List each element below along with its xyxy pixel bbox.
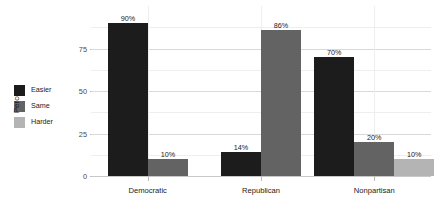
bar-democratic-easier[interactable]: 90% [108,23,148,176]
bar-nonpartisan-same[interactable]: 20% [354,142,394,176]
legend-item-same[interactable]: Same [14,98,76,114]
x-tick-mark-republican [261,176,262,181]
bar-value-nonpartisan-easier: 70% [327,49,341,56]
bar-value-democratic-same: 10% [161,151,175,158]
bar-value-republican-same: 86% [274,22,288,29]
plot-area: 90% 10% 14% 86% 70% 20% 10% [91,6,431,176]
y-tick-label-50: 50 [47,87,87,96]
y-tick-label-75: 75 [47,44,87,53]
bar-republican-same[interactable]: 86% [261,30,301,176]
x-tick-label-nonpartisan: Nonpartisan [354,186,395,195]
bar-nonpartisan-easier[interactable]: 70% [314,57,354,176]
bar-value-democratic-easier: 90% [121,15,135,22]
y-tick-label-0: 0 [47,172,87,181]
bar-value-nonpartisan-harder: 10% [407,151,421,158]
bar-democratic-same[interactable]: 10% [148,159,188,176]
bar-value-nonpartisan-same: 20% [367,134,381,141]
bar-republican-easier[interactable]: 14% [221,152,261,176]
legend-item-harder[interactable]: Harder [14,114,76,130]
x-tick-label-democratic: Democratic [128,186,166,195]
bar-nonpartisan-harder[interactable]: 10% [394,159,434,176]
legend-label-same: Same [31,102,50,109]
y-axis-title: Percent [12,70,21,130]
bar-value-republican-easier: 14% [234,144,248,151]
x-tick-label-republican: Republican [242,186,280,195]
x-tick-mark-nonpartisan [374,176,375,181]
x-tick-mark-democratic [148,176,149,181]
y-tick-label-25: 25 [47,129,87,138]
legend-label-harder: Harder [31,118,53,125]
bar-chart: Easier Same Harder Percent 0 25 50 75 [0,0,434,220]
